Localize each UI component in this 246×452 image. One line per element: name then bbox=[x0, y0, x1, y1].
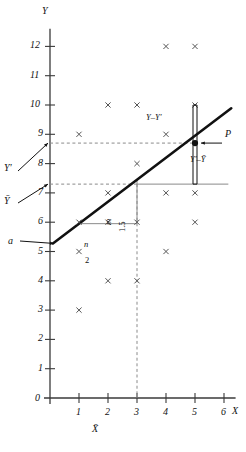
data-point bbox=[76, 249, 81, 254]
data-point bbox=[192, 190, 197, 195]
data-point bbox=[134, 102, 139, 107]
data-point bbox=[163, 44, 168, 49]
figure-container: 1234567891011120123456 Y X Y–Y′ Y′–Ȳ P Y… bbox=[0, 0, 246, 452]
y-axis-title: Y bbox=[42, 6, 48, 16]
data-point bbox=[192, 220, 197, 225]
data-point bbox=[134, 278, 139, 283]
slope-rise-symbol: m bbox=[104, 219, 113, 225]
y-predicted-arrow bbox=[18, 143, 48, 171]
data-point bbox=[163, 190, 168, 195]
y-mean-arrow bbox=[18, 184, 48, 203]
data-point bbox=[163, 132, 168, 137]
data-point bbox=[105, 278, 110, 283]
guide-lines-group bbox=[50, 143, 228, 398]
data-point bbox=[76, 308, 81, 313]
deviation-braces-group bbox=[192, 105, 198, 184]
x-axis-title: X bbox=[232, 406, 238, 416]
explained-deviation-label: Y′–Ȳ bbox=[190, 155, 206, 164]
data-point bbox=[134, 161, 139, 166]
y-predicted-label: Y′ bbox=[4, 163, 12, 173]
y-mean-label: Ȳ bbox=[4, 196, 10, 206]
x-mean-label: X̄ bbox=[92, 424, 98, 434]
residual-label: Y–Y′ bbox=[146, 113, 162, 122]
data-point bbox=[105, 190, 110, 195]
point-p-marker bbox=[192, 140, 198, 146]
intercept-label: a bbox=[8, 236, 13, 246]
data-point bbox=[105, 102, 110, 107]
data-point bbox=[192, 44, 197, 49]
slope-rise-value: 1.5 bbox=[118, 221, 127, 232]
intercept-arrow bbox=[20, 241, 54, 245]
data-point bbox=[163, 249, 168, 254]
point-p-arrow bbox=[201, 141, 222, 144]
axes-group bbox=[44, 29, 236, 404]
slope-run-symbol: n bbox=[84, 240, 88, 249]
slope-run-value: 2 bbox=[85, 256, 89, 265]
data-point bbox=[76, 132, 81, 137]
point-p-label: P bbox=[225, 129, 231, 139]
